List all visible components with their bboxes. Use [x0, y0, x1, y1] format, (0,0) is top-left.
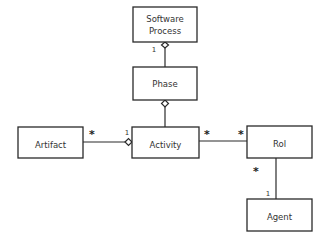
uml-class-diagram: 1 * 1 * * * 1 Software Process Phase Act… [0, 0, 327, 243]
class-box-software-process [133, 7, 197, 42]
class-rol[interactable]: Rol [247, 126, 312, 158]
multiplicity-rol-agent-star: * [253, 165, 259, 178]
aggregation-diamond-phase [162, 100, 169, 107]
class-label-activity: Activity [150, 140, 182, 150]
class-label-software-process-line1: Software [146, 14, 183, 24]
class-label-rol: Rol [273, 139, 286, 149]
multiplicity-software-process-one: 1 [152, 46, 156, 54]
class-phase[interactable]: Phase [133, 67, 197, 100]
class-agent[interactable]: Agent [247, 199, 312, 231]
multiplicity-activity-rol-star-right: * [238, 128, 244, 141]
multiplicity-rol-agent-one: 1 [266, 190, 270, 198]
multiplicity-artifact-star: * [89, 128, 95, 141]
class-label-artifact: Artifact [35, 140, 67, 150]
class-label-software-process-line2: Process [149, 26, 182, 36]
aggregation-diamond-activity [125, 139, 132, 146]
class-software-process[interactable]: Software Process [133, 7, 197, 42]
multiplicity-artifact-activity-one: 1 [125, 129, 129, 137]
aggregation-diamond-software-process [162, 42, 169, 48]
class-label-phase: Phase [152, 79, 177, 89]
multiplicity-activity-rol-star-left: * [204, 128, 210, 141]
class-activity[interactable]: Activity [132, 127, 199, 158]
class-artifact[interactable]: Artifact [18, 127, 83, 158]
class-label-agent: Agent [267, 212, 293, 222]
